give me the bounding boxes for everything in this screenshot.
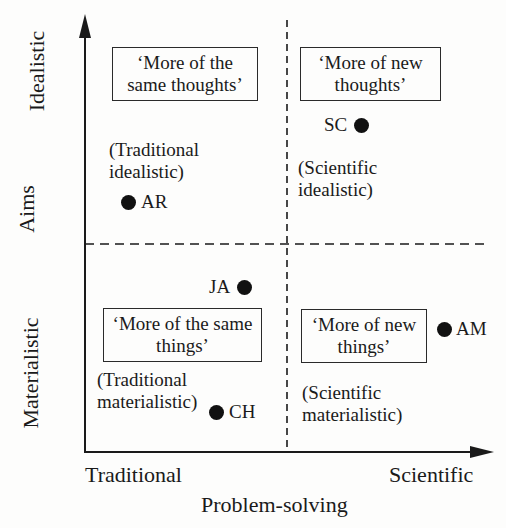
quadrant-box-top-left: ‘More of the same thoughts’ xyxy=(112,47,258,101)
y-axis-low-label: Materialistic xyxy=(18,308,44,438)
x-axis-low-label: Traditional xyxy=(85,462,182,488)
box-line: thoughts’ xyxy=(318,74,422,96)
category-label-top-right: (Scientific idealistic) xyxy=(298,157,377,201)
quadrant-box-bottom-right: ‘More of new things’ xyxy=(301,309,427,363)
box-line: ‘More of new xyxy=(318,52,422,74)
category-label-top-left: (Traditional idealistic) xyxy=(109,139,199,183)
point-am-marker xyxy=(437,322,452,337)
quadrant-box-bottom-left: ‘More of the same things’ xyxy=(103,308,262,362)
box-line: same thoughts’ xyxy=(127,74,243,96)
point-ch-marker xyxy=(209,405,224,420)
point-ar-label: AR xyxy=(141,191,167,213)
box-line: things’ xyxy=(113,335,253,357)
point-ja-label: JA xyxy=(209,276,230,298)
point-sc-marker xyxy=(354,118,369,133)
box-line: ‘More of the same xyxy=(113,313,253,335)
y-axis-arrowhead xyxy=(79,14,91,38)
point-ar-marker xyxy=(121,195,136,210)
point-ch-label: CH xyxy=(229,401,255,423)
y-axis-title: Aims xyxy=(14,184,40,234)
box-line: ‘More of new xyxy=(312,314,416,336)
x-axis-arrowhead xyxy=(470,446,494,458)
category-label-bottom-left: (Traditional materialistic) xyxy=(97,369,197,413)
x-axis-title: Problem-solving xyxy=(201,492,348,518)
point-sc-label: SC xyxy=(324,114,347,136)
box-line: things’ xyxy=(312,336,416,358)
quadrant-box-top-right: ‘More of new thoughts’ xyxy=(300,47,441,101)
point-am-label: AM xyxy=(456,318,487,340)
point-ja-marker xyxy=(237,280,252,295)
x-axis-high-label: Scientific xyxy=(389,462,473,488)
category-label-bottom-right: (Scientific materialistic) xyxy=(302,382,402,426)
box-line: ‘More of the xyxy=(127,52,243,74)
y-axis-high-label: Idealistic xyxy=(24,26,50,116)
